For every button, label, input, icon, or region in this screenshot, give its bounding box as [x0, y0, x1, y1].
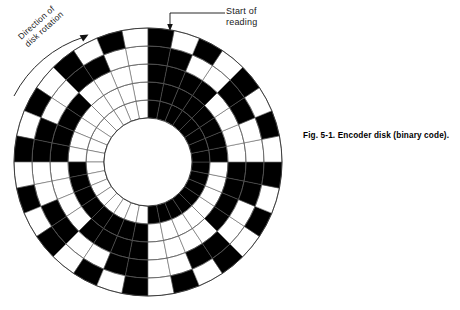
figure-caption: Fig. 5-1. Encoder disk (binary code).	[303, 130, 453, 141]
disk-segment	[226, 162, 246, 181]
disk-segment	[148, 258, 171, 278]
disk-segment	[148, 28, 174, 48]
disk-segment	[50, 143, 70, 162]
disk-segment	[148, 46, 171, 66]
disk-segment	[244, 162, 264, 185]
disk-hub	[104, 118, 192, 206]
disk-segment	[148, 276, 174, 296]
disk-segment	[122, 276, 148, 296]
disk-segment	[244, 139, 264, 162]
disk-segment	[14, 162, 34, 188]
disk-segment	[122, 28, 148, 48]
disk-segment	[32, 162, 52, 185]
disk-segment	[32, 139, 52, 162]
disk-segment	[148, 64, 167, 84]
disk-segment	[262, 136, 282, 162]
figure-encoder-disk: Start of reading Direction of disk rotat…	[0, 0, 460, 310]
disk-segment	[125, 46, 148, 66]
encoder-disk-graphic	[0, 0, 460, 310]
start-of-reading-pointer	[167, 13, 225, 31]
disk-segment	[14, 136, 34, 162]
figure-caption-text: Fig. 5-1. Encoder disk (binary code).	[303, 131, 449, 140]
disk-segment	[129, 240, 148, 260]
disk-segment	[125, 258, 148, 278]
start-of-reading-label: Start of reading	[226, 6, 257, 28]
disk-segment	[262, 162, 282, 188]
